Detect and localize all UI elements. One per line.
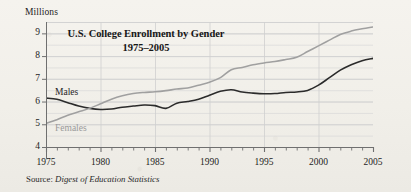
- y-tick-label: 4: [28, 142, 40, 152]
- chart-title-line2: 1975–2005: [56, 41, 236, 55]
- y-axis-unit-label: Millions: [25, 7, 58, 17]
- x-tick-label: 1975: [31, 158, 61, 168]
- source-label: Source:: [26, 174, 53, 184]
- x-tick-label: 1985: [140, 158, 170, 168]
- x-tick-label: 1990: [195, 158, 225, 168]
- y-tick-label: 5: [28, 119, 40, 129]
- y-tick-label: 9: [28, 28, 40, 38]
- x-tick-label: 2005: [358, 158, 388, 168]
- source-body: Digest of Education Statistics: [55, 174, 159, 184]
- source-note: Source: Digest of Education Statistics: [26, 174, 159, 184]
- y-tick-label: 6: [28, 97, 40, 107]
- chart-title-line1: U.S. College Enrollment by Gender: [68, 28, 225, 39]
- y-tick-label: 8: [28, 51, 40, 61]
- chart-page: Millions 456789 197519801985199019952000…: [0, 0, 411, 192]
- series-label-females: Females: [55, 124, 87, 134]
- series-label-males: Males: [55, 88, 78, 98]
- chart-title: U.S. College Enrollment by Gender 1975–2…: [56, 27, 236, 55]
- x-tick-marks: [47, 147, 374, 152]
- x-tick-label: 2000: [304, 158, 334, 168]
- x-tick-label: 1995: [249, 158, 279, 168]
- x-tick-label: 1980: [86, 158, 116, 168]
- y-tick-label: 7: [28, 74, 40, 84]
